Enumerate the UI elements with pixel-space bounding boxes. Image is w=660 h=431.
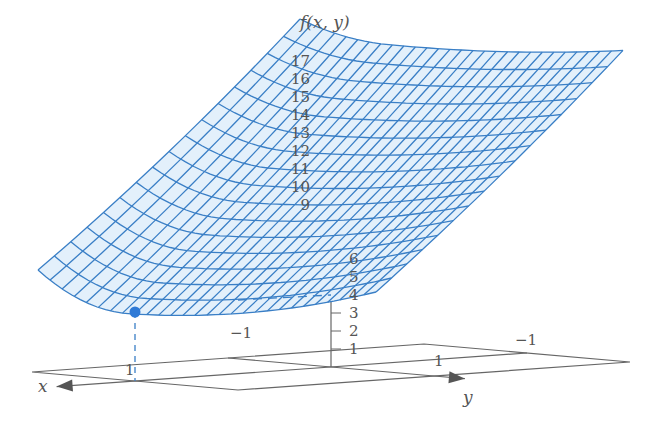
minimum-point-marker — [130, 307, 141, 318]
z-tick-label: 5 — [349, 268, 359, 286]
z-tick-label: 15 — [291, 88, 310, 106]
z-tick-label: 3 — [349, 304, 359, 322]
z-tick-label: 1 — [349, 340, 359, 358]
z-tick-label: 11 — [291, 160, 310, 178]
z-tick-label: 4 — [349, 286, 359, 304]
surface-plot: 123456910111213141516171−11−1xyf(x, y) — [0, 0, 660, 431]
z-tick-label: 10 — [291, 178, 310, 196]
y-tick-label: 1 — [434, 352, 444, 370]
x-tick-label: −1 — [515, 331, 537, 349]
z-tick-label: 14 — [291, 106, 310, 124]
y-axis-arrow-icon — [448, 371, 464, 383]
x-axis-label: x — [38, 376, 48, 396]
surface-mesh — [38, 19, 623, 315]
z-tick-label: 9 — [300, 196, 310, 214]
z-tick-label: 17 — [291, 52, 310, 70]
z-tick-label: 16 — [291, 70, 310, 88]
z-tick-label: 13 — [291, 124, 310, 142]
x-axis-arrow-icon — [57, 379, 73, 391]
y-axis-label: y — [462, 387, 473, 407]
y-tick-label: −1 — [230, 324, 252, 342]
z-axis-label: f(x, y) — [298, 12, 350, 32]
z-tick-label: 12 — [291, 142, 310, 160]
x-tick-label: 1 — [125, 361, 135, 379]
z-tick-label: 2 — [349, 322, 359, 340]
z-tick-label: 6 — [349, 250, 359, 268]
